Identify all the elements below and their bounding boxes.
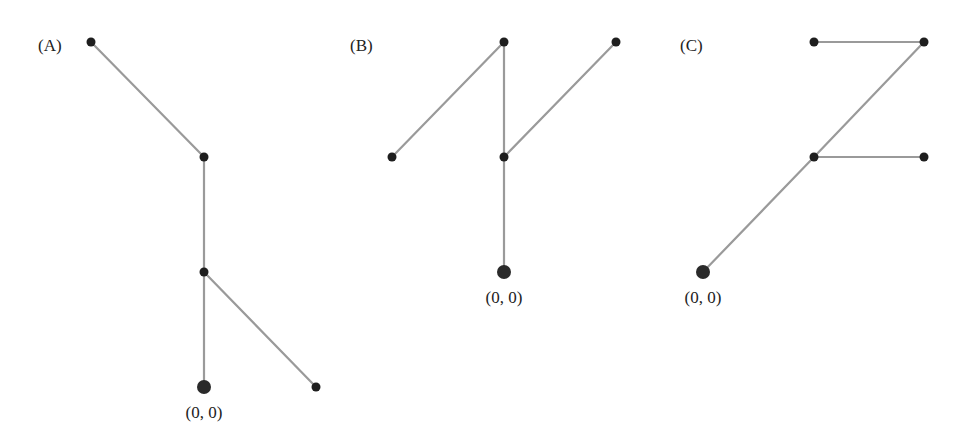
tree-node (810, 38, 819, 47)
tree-edge (204, 272, 316, 387)
root-node (197, 380, 211, 394)
tree-node (612, 38, 621, 47)
tree-node (388, 153, 397, 162)
panel-c: (C)(0, 0) (680, 36, 929, 307)
tree-edge (703, 157, 814, 272)
origin-label: (0, 0) (186, 403, 223, 422)
tree-edge (392, 42, 504, 157)
tree-node (500, 38, 509, 47)
tree-node (920, 153, 929, 162)
tree-node (810, 153, 819, 162)
tree-node (312, 383, 321, 392)
tree-node (920, 38, 929, 47)
tree-node (87, 38, 96, 47)
root-node (497, 265, 511, 279)
panel-label: (B) (350, 36, 373, 55)
panel-label: (C) (680, 36, 703, 55)
origin-label: (0, 0) (486, 288, 523, 307)
root-node (696, 265, 710, 279)
panel-a: (A)(0, 0) (38, 36, 321, 422)
tree-node (200, 268, 209, 277)
tree-node (200, 153, 209, 162)
tree-edge (504, 42, 616, 157)
panel-b: (B)(0, 0) (350, 36, 621, 307)
tree-edge (91, 42, 204, 157)
tree-diagram-canvas: (A)(0, 0) (B)(0, 0) (C)(0, 0) (0, 0, 962, 430)
tree-edge (814, 42, 924, 157)
tree-node (500, 153, 509, 162)
panel-label: (A) (38, 36, 62, 55)
origin-label: (0, 0) (685, 288, 722, 307)
